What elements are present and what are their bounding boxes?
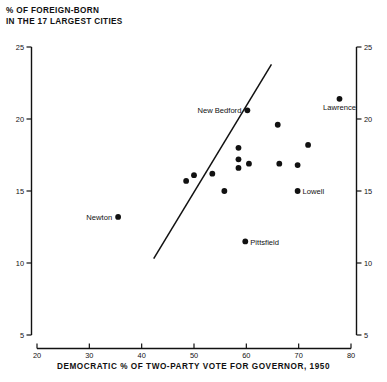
x-tick-label: 60 [242, 351, 250, 360]
data-point [276, 161, 282, 167]
regression-line [154, 64, 272, 258]
y-tick-label-left: 10 [16, 259, 24, 268]
data-point-new-bedford [244, 107, 250, 113]
data-point-lawrence [337, 96, 343, 102]
x-tick-label: 40 [138, 351, 146, 360]
y-tick-label-left: 25 [16, 43, 24, 52]
data-point [236, 145, 242, 151]
data-point-newton [115, 214, 121, 220]
data-point [246, 161, 252, 167]
point-label-pittsfield: Pittsfield [250, 238, 279, 247]
y-tick-label-left: 5 [20, 331, 24, 340]
point-label-newton: Newton [86, 213, 112, 222]
data-point [183, 178, 189, 184]
data-point [209, 171, 215, 177]
y-tick-label-right: 15 [364, 187, 372, 196]
x-tick-label: 70 [295, 351, 303, 360]
fit-line [154, 64, 272, 258]
data-point-pittsfield [242, 239, 248, 245]
y-tick-label-left: 20 [16, 115, 24, 124]
axes: 51015202551015202520304050607080 [16, 43, 372, 360]
x-tick-label: 80 [347, 351, 355, 360]
point-label-lawrence: Lawrence [323, 103, 356, 112]
data-point [305, 142, 311, 148]
scatter-chart: % OF FOREIGN-BORN IN THE 17 LARGEST CITI… [0, 0, 387, 382]
plot-area: 51015202551015202520304050607080 NewtonP… [0, 0, 387, 382]
data-point [295, 162, 301, 168]
point-label-lowell: Lowell [303, 187, 325, 196]
data-point-lowell [295, 188, 301, 194]
y-tick-label-right: 10 [364, 259, 372, 268]
y-tick-label-left: 15 [16, 187, 24, 196]
data-point [236, 165, 242, 171]
x-axis-title: DEMOCRATIC % OF TWO-PARTY VOTE FOR GOVER… [0, 362, 387, 371]
point-label-new-bedford: New Bedford [197, 106, 241, 115]
data-point [275, 122, 281, 128]
y-tick-label-right: 5 [364, 331, 368, 340]
data-point [221, 188, 227, 194]
x-tick-label: 30 [85, 351, 93, 360]
x-tick-label: 50 [190, 351, 198, 360]
x-tick-label: 20 [33, 351, 41, 360]
y-tick-label-right: 25 [364, 43, 372, 52]
point-labels: NewtonPittsfieldNew BedfordLowellLawrenc… [86, 103, 356, 247]
data-point [191, 172, 197, 178]
data-points [115, 96, 342, 244]
y-tick-label-right: 20 [364, 115, 372, 124]
data-point [236, 156, 242, 162]
